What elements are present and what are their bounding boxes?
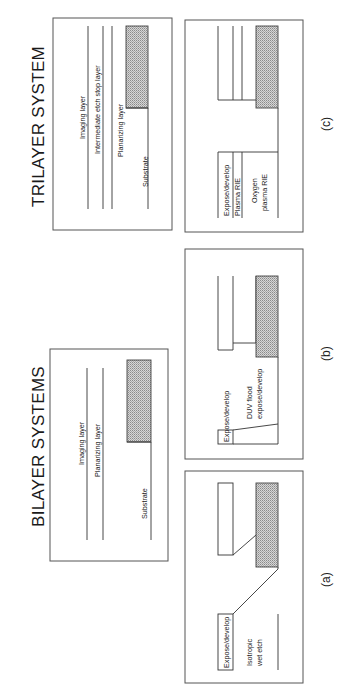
trilayer-imaging-layer-label: Imaging layer xyxy=(78,95,87,139)
panel-b-expose-develop-2-label: expose/develop xyxy=(255,369,264,419)
bilayer-stack-panel: Imaging layer Planarizing layer Substrat… xyxy=(50,349,168,561)
panel-c-plasma-rie-2-label: plasma RIE xyxy=(260,174,269,211)
panel-a-label: (a) xyxy=(319,572,333,587)
panel-a-isotropic-label: Isotropic xyxy=(245,638,254,666)
panel-b: Expose/develop DUV flood expose/develop xyxy=(185,249,303,459)
panel-c-label: (c) xyxy=(319,117,333,131)
panel-b-duv-flood-label: DUV flood xyxy=(245,386,254,419)
panel-c-expose-develop-label: Expose/develop xyxy=(222,165,231,216)
trilayer-etch-stop-layer-label: Intermediate etch stop layer xyxy=(93,65,102,154)
panel-a-expose-develop-label: Expose/develop xyxy=(222,617,231,668)
panel-b-expose-develop-label: Expose/develop xyxy=(222,391,231,442)
bilayer-planarizing-layer-label: Planarizing layer xyxy=(93,423,102,477)
trilayer-stack-panel: Imaging layer Intermediate etch stop lay… xyxy=(53,18,172,230)
panel-b-label: (b) xyxy=(319,346,333,361)
panel-c: Expose/develop Plasma RIE Oxygen plasma … xyxy=(185,20,303,232)
bilayer-imaging-layer-label: Imaging layer xyxy=(77,421,86,465)
trilayer-planarizing-layer-label: Planarizing layer xyxy=(116,103,125,157)
diagram-canvas: BILAYER SYSTEMS TRILAYER SYSTEM Imaging … xyxy=(0,0,341,687)
trilayer-substrate-label: Substrate xyxy=(141,156,150,187)
panel-a: Expose/develop Isotropic wet etch xyxy=(185,471,303,683)
bilayer-title: BILAYER SYSTEMS xyxy=(29,366,48,527)
panel-c-plasma-rie-label: Plasma RIE xyxy=(233,178,242,216)
trilayer-title: TRILAYER SYSTEM xyxy=(29,46,48,207)
panel-c-oxygen-label: Oxygen xyxy=(250,178,259,203)
panel-a-wet-etch-label: wet etch xyxy=(255,639,264,667)
bilayer-substrate-label: Substrate xyxy=(140,488,149,519)
